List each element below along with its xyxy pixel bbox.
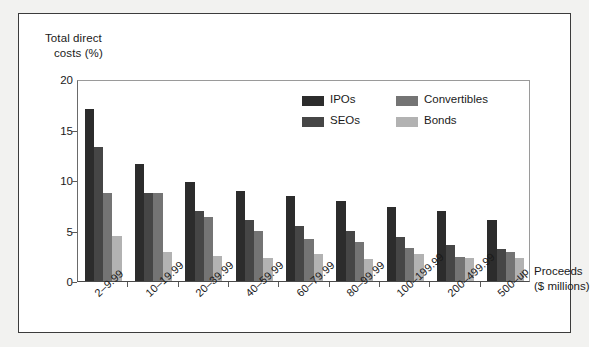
bar-seos-8 bbox=[497, 249, 506, 281]
bar-group bbox=[135, 81, 172, 281]
bar-ipos-0 bbox=[85, 109, 94, 281]
chart-legend: IPOsSEOsConvertiblesBonds bbox=[302, 93, 502, 137]
y-tick-label: 20 bbox=[51, 75, 73, 85]
bar-ipos-3 bbox=[236, 191, 245, 281]
figure-frame: Total direct costs (%) 05101520 2–9.9910… bbox=[18, 13, 571, 333]
legend-label: Bonds bbox=[424, 114, 457, 126]
legend-label: IPOs bbox=[330, 93, 356, 105]
bar-ipos-7 bbox=[437, 211, 446, 281]
bar-seos-2 bbox=[195, 211, 204, 281]
x-axis-category-labels: 2–9.9910–19.9920–39.9940–59.9960–79.9980… bbox=[77, 282, 547, 347]
y-tick-label: 5 bbox=[51, 227, 73, 237]
bar-ipos-1 bbox=[135, 164, 144, 281]
legend-swatch-icon bbox=[396, 96, 418, 106]
bar-convertibles-1 bbox=[153, 193, 162, 281]
y-tick-label: 0 bbox=[51, 277, 73, 287]
bar-group bbox=[185, 81, 222, 281]
bar-seos-7 bbox=[446, 245, 455, 281]
bar-seos-5 bbox=[346, 231, 355, 282]
legend-swatch-icon bbox=[302, 117, 324, 127]
legend-label: SEOs bbox=[330, 114, 360, 126]
bar-convertibles-0 bbox=[103, 193, 112, 281]
bar-seos-1 bbox=[144, 193, 153, 281]
x-axis-title-line2: ($ millions) bbox=[534, 280, 590, 292]
bar-ipos-5 bbox=[336, 201, 345, 281]
x-axis-title: Proceeds ($ millions) bbox=[534, 264, 594, 293]
bar-ipos-2 bbox=[185, 182, 194, 281]
bar-group bbox=[236, 81, 273, 281]
y-tick-label: 15 bbox=[51, 126, 73, 136]
legend-swatch-icon bbox=[302, 96, 324, 106]
bar-ipos-4 bbox=[286, 196, 295, 281]
y-axis-title-line1: Total direct bbox=[45, 32, 102, 44]
y-axis-title-line2: costs (%) bbox=[45, 46, 205, 61]
y-tick-label: 10 bbox=[51, 176, 73, 186]
bar-seos-0 bbox=[94, 147, 103, 281]
bar-seos-3 bbox=[245, 220, 254, 281]
bar-seos-6 bbox=[396, 237, 405, 281]
x-axis-title-line1: Proceeds bbox=[534, 265, 583, 277]
bar-seos-4 bbox=[295, 226, 304, 281]
legend-label: Convertibles bbox=[424, 93, 488, 105]
bar-group bbox=[85, 81, 122, 281]
legend-swatch-icon bbox=[396, 117, 418, 127]
bar-ipos-6 bbox=[387, 207, 396, 281]
y-axis-tick-labels: 05101520 bbox=[47, 80, 73, 282]
y-axis-title: Total direct costs (%) bbox=[45, 31, 205, 60]
